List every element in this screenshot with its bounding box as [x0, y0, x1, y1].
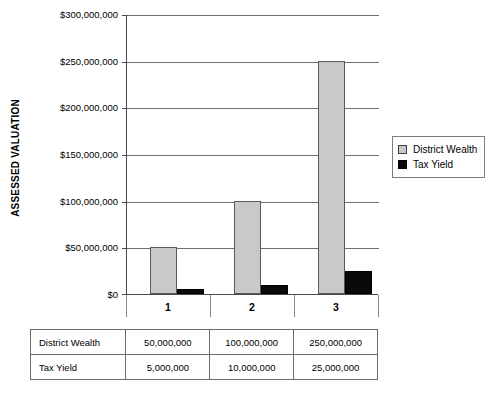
y-tick-label-250m: $250,000,000 — [26, 56, 118, 67]
legend-item-district-wealth[interactable]: District Wealth — [398, 142, 477, 157]
table-row: District Wealth 50,000,000 100,000,000 2… — [31, 330, 378, 355]
legend-item-tax-yield[interactable]: Tax Yield — [398, 157, 477, 172]
bar-tax-yield-2 — [261, 285, 288, 294]
table-cell-district-wealth-2: 100,000,000 — [210, 330, 294, 355]
legend-label-district-wealth: District Wealth — [413, 144, 477, 155]
category-separator-right — [378, 295, 379, 317]
bar-district-wealth-1 — [150, 247, 177, 294]
y-tick-100m — [122, 202, 127, 203]
legend-swatch-tax-yield — [398, 160, 407, 169]
bar-tax-yield-3 — [345, 271, 372, 294]
y-tick-250m — [122, 62, 127, 63]
table-cell-district-wealth-1: 50,000,000 — [126, 330, 210, 355]
y-tick-label-200m: $200,000,000 — [26, 102, 118, 113]
category-label-3: 3 — [294, 301, 378, 313]
bar-tax-yield-1 — [177, 289, 204, 294]
y-tick-label-0: $0 — [26, 289, 118, 300]
bar-district-wealth-3 — [318, 61, 345, 294]
table-cell-tax-yield-3: 25,000,000 — [294, 355, 378, 380]
y-tick-300m — [122, 15, 127, 16]
legend-label-tax-yield: Tax Yield — [413, 159, 453, 170]
y-tick-label-100m: $100,000,000 — [26, 196, 118, 207]
table-cell-tax-yield-1: 5,000,000 — [126, 355, 210, 380]
y-tick-50m — [122, 248, 127, 249]
gridline-300m — [127, 15, 379, 16]
legend-swatch-district-wealth — [398, 145, 407, 154]
y-tick-label-150m: $150,000,000 — [26, 149, 118, 160]
plot-area — [126, 15, 378, 295]
table-cell-tax-yield-2: 10,000,000 — [210, 355, 294, 380]
chart-legend: District Wealth Tax Yield — [392, 136, 485, 178]
y-tick-150m — [122, 155, 127, 156]
y-tick-label-50m: $50,000,000 — [26, 242, 118, 253]
table-row-header-district-wealth: District Wealth — [31, 330, 126, 355]
bar-district-wealth-2 — [234, 201, 261, 294]
y-tick-200m — [122, 108, 127, 109]
y-tick-label-300m: $300,000,000 — [26, 9, 118, 20]
table-cell-district-wealth-3: 250,000,000 — [294, 330, 378, 355]
table-row-header-tax-yield: Tax Yield — [31, 355, 126, 380]
y-axis-title: ASSESSED VALUATION — [10, 88, 24, 228]
data-table: District Wealth 50,000,000 100,000,000 2… — [30, 329, 378, 380]
category-label-2: 2 — [210, 301, 294, 313]
category-label-1: 1 — [126, 301, 210, 313]
table-row: Tax Yield 5,000,000 10,000,000 25,000,00… — [31, 355, 378, 380]
